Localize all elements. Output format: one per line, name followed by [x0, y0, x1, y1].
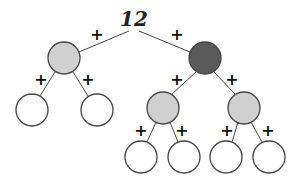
- tree-node-light: [48, 42, 80, 74]
- tree-node-light: [147, 92, 179, 124]
- tree-node-light: [228, 92, 260, 124]
- tree-node-empty: [168, 141, 200, 173]
- tree-node-empty: [253, 141, 285, 173]
- edge-label: +: [220, 121, 233, 140]
- edge-label: +: [134, 121, 147, 140]
- edge-label: +: [81, 70, 94, 89]
- root-label: 12: [120, 7, 148, 31]
- edge-label: +: [170, 25, 183, 44]
- edge-label: +: [175, 121, 188, 140]
- tree-node-empty: [16, 94, 48, 126]
- edge-label: +: [34, 70, 47, 89]
- tree-nodes: [16, 42, 285, 173]
- edge-label: +: [170, 70, 183, 89]
- tree-node-empty: [125, 141, 157, 173]
- binary-tree-diagram: 12 + + + + + + + + + +: [0, 0, 300, 183]
- tree-node-dark: [189, 42, 221, 74]
- tree-node-empty: [210, 141, 242, 173]
- edge-label: +: [261, 121, 274, 140]
- edge-label: +: [90, 25, 103, 44]
- edge-label: +: [225, 70, 238, 89]
- tree-node-empty: [81, 94, 113, 126]
